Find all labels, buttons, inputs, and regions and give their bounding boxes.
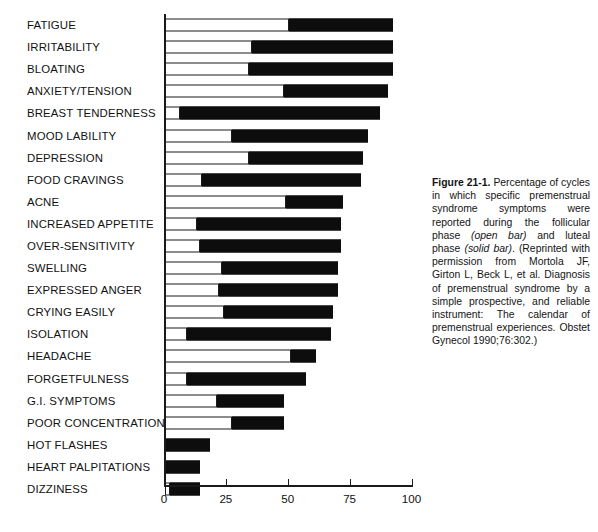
category-label: MOOD LABILITY: [27, 130, 116, 142]
bar-segment-open: [165, 85, 284, 98]
bar-row: G.I. SYMPTOMS: [0, 390, 430, 412]
bar-segment-open: [165, 173, 202, 186]
stacked-bar: [165, 129, 368, 142]
bar-row: OVER-SENSITIVITY: [0, 235, 430, 257]
x-axis-tick: [350, 479, 351, 486]
bar-segment-open: [165, 394, 217, 407]
bar-segment-solid: [202, 173, 360, 186]
category-label: IRRITABILITY: [27, 41, 100, 53]
x-axis-tick-label: 100: [402, 492, 421, 505]
stacked-bar: [165, 350, 316, 363]
bar-segment-open: [165, 350, 291, 363]
bar-segment-solid: [197, 217, 341, 230]
category-label: BLOATING: [27, 63, 85, 75]
stacked-bar: [165, 195, 343, 208]
stacked-bar: [165, 63, 393, 76]
x-axis-tick-label: 50: [281, 492, 294, 505]
stacked-bar: [165, 41, 393, 54]
bar-segment-solid: [289, 19, 393, 32]
category-label: FORGETFULNESS: [27, 373, 129, 385]
category-label: HOT FLASHES: [27, 439, 108, 451]
bar-segment-open: [165, 195, 286, 208]
bar-row: BREAST TENDERNESS: [0, 102, 430, 124]
stacked-bar: [165, 217, 341, 230]
category-label: SWELLING: [27, 262, 87, 274]
category-label: INCREASED APPETITE: [27, 218, 154, 230]
category-label: ISOLATION: [27, 328, 88, 340]
caption-text-3: . (Reprinted with permission from Mortol…: [432, 243, 590, 346]
bar-segment-solid: [286, 195, 343, 208]
bar-segment-open: [165, 372, 187, 385]
bar-segment-solid: [219, 284, 338, 297]
bar-segment-solid: [222, 262, 338, 275]
bar-row: HEART PALPITATIONS: [0, 456, 430, 478]
x-axis-tick-label: 75: [343, 492, 356, 505]
stacked-bar: [165, 85, 388, 98]
category-label: BREAST TENDERNESS: [27, 107, 156, 119]
stacked-bar: [165, 460, 200, 473]
stacked-bar: [165, 372, 306, 385]
figure-caption: Figure 21-1. Percentage of cycles in whi…: [432, 176, 590, 348]
bar-segment-open: [165, 151, 249, 164]
bar-row: BLOATING: [0, 58, 430, 80]
bar-row: MOOD LABILITY: [0, 124, 430, 146]
x-axis-tick-label: 0: [161, 492, 167, 505]
stacked-bar: [165, 19, 393, 32]
stacked-bar: [165, 394, 284, 407]
bar-row: HOT FLASHES: [0, 434, 430, 456]
bar-row: DEPRESSION: [0, 147, 430, 169]
x-axis-tick: [164, 479, 165, 486]
bar-row: HEADACHE: [0, 345, 430, 367]
bar-segment-solid: [249, 151, 363, 164]
stacked-bar: [165, 306, 333, 319]
bar-segment-solid: [180, 107, 380, 120]
bar-segment-solid: [252, 41, 393, 54]
stacked-bar: [165, 328, 331, 341]
bar-row: DIZZINESS: [0, 478, 430, 500]
stacked-bar: [165, 151, 363, 164]
bar-segment-solid: [232, 129, 368, 142]
figure-page: FATIGUEIRRITABILITYBLOATINGANXIETY/TENSI…: [0, 0, 598, 532]
bar-row: ISOLATION: [0, 323, 430, 345]
bar-row: ANXIETY/TENSION: [0, 80, 430, 102]
bar-row: EXPRESSED ANGER: [0, 279, 430, 301]
x-axis-tick-label: 25: [219, 492, 232, 505]
bar-segment-solid: [187, 372, 306, 385]
bar-row: FATIGUE: [0, 14, 430, 36]
category-label: HEADACHE: [27, 350, 92, 362]
stacked-bar: [165, 107, 380, 120]
category-label: POOR CONCENTRATION: [27, 417, 165, 429]
bar-segment-solid: [217, 394, 284, 407]
bar-segment-open: [165, 107, 180, 120]
category-label: OVER-SENSITIVITY: [27, 240, 135, 252]
bar-rows: FATIGUEIRRITABILITYBLOATINGANXIETY/TENSI…: [0, 14, 430, 500]
bar-segment-solid: [284, 85, 388, 98]
category-label: ANXIETY/TENSION: [27, 85, 132, 97]
stacked-bar: [165, 284, 338, 297]
category-label: EXPRESSED ANGER: [27, 284, 142, 296]
bar-segment-solid: [291, 350, 316, 363]
category-label: FATIGUE: [27, 19, 76, 31]
category-label: CRYING EASILY: [27, 306, 115, 318]
bar-segment-open: [165, 328, 187, 341]
stacked-bar: [165, 438, 210, 451]
bar-row: CRYING EASILY: [0, 301, 430, 323]
category-label: FOOD CRAVINGS: [27, 174, 124, 186]
bar-segment-solid: [232, 416, 284, 429]
bar-segment-open: [165, 41, 252, 54]
bar-segment-solid: [200, 239, 341, 252]
bar-row: FOOD CRAVINGS: [0, 169, 430, 191]
bar-segment-solid: [187, 328, 331, 341]
bar-segment-open: [165, 129, 232, 142]
stacked-bar: [165, 416, 284, 429]
bar-row: ACNE: [0, 191, 430, 213]
chart-area: FATIGUEIRRITABILITYBLOATINGANXIETY/TENSI…: [0, 0, 430, 532]
stacked-bar: [165, 262, 338, 275]
bar-segment-open: [165, 416, 232, 429]
stacked-bar: [165, 173, 361, 186]
bar-row: IRRITABILITY: [0, 36, 430, 58]
category-label: DIZZINESS: [27, 483, 88, 495]
bar-segment-open: [165, 19, 289, 32]
caption-figure-number: Figure 21-1.: [432, 177, 490, 188]
x-axis-tick: [226, 479, 227, 486]
